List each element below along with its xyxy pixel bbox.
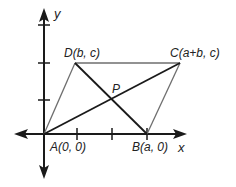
x-axis-label: x — [178, 141, 185, 154]
y-axis-label: y — [54, 7, 61, 20]
parallelogram-diagram: y x D(b, c) C(a+b, c) P A(0, 0) B(a, 0) — [0, 0, 236, 187]
point-label-A: A(0, 0) — [50, 141, 86, 153]
point-label-D: D(b, c) — [64, 47, 100, 59]
point-label-B: B(a, 0) — [132, 141, 168, 153]
parallelogram-diagonals — [44, 63, 180, 134]
x-axis — [14, 128, 187, 140]
diagonal-DB — [75, 63, 147, 134]
point-label-P: P — [112, 83, 120, 95]
side-BC — [147, 63, 180, 134]
y-axis — [38, 8, 50, 179]
point-label-C: C(a+b, c) — [170, 47, 220, 59]
side-AD — [44, 63, 75, 134]
